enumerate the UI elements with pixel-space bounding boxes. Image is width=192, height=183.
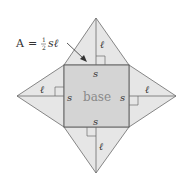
slant-label-right: ℓ	[145, 84, 149, 95]
slant-label-top: ℓ	[100, 39, 104, 50]
slant-label-bottom: ℓ	[99, 141, 103, 152]
triangle-face-top	[64, 18, 129, 65]
side-label-top: s	[93, 68, 98, 79]
side-label-bottom: s	[93, 116, 98, 127]
side-label-right: s	[120, 92, 125, 103]
formula-fraction-numerator: 1	[42, 36, 46, 43]
triangle-face-bottom	[64, 127, 129, 173]
diagram-svg: ℓ ℓ ℓ ℓ s s s s base A = 1 2 sℓ	[0, 0, 192, 183]
formula-equals: =	[28, 37, 37, 50]
side-label-left: s	[67, 92, 72, 103]
slant-label-left: ℓ	[40, 84, 44, 95]
formula-rhs: sℓ	[48, 37, 59, 50]
pyramid-net-diagram: ℓ ℓ ℓ ℓ s s s s base A = 1 2 sℓ	[0, 0, 192, 183]
base-label: base	[83, 90, 111, 104]
formula-lhs: A	[15, 37, 25, 50]
formula-fraction-denominator: 2	[42, 44, 46, 51]
